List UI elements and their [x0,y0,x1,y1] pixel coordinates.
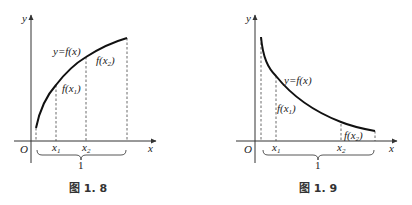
y-axis-label: y [21,12,27,24]
interval-label: 1 [78,159,84,171]
figure-1-9: y x O y=f(x) f(x1) f(x2) x1 x2 1 图 1. 9 [236,12,397,195]
f-x1-label: f(x1) [277,102,296,116]
origin-label: O [20,143,28,155]
x-axis-label: x [147,142,153,154]
origin-label: O [244,143,252,155]
f-x2-label: f(x2) [96,54,115,68]
y-axis-label: y [245,12,251,24]
curve-label: y=f(x) [283,74,312,87]
f-x1-label: f(x1) [62,82,81,96]
f-x2-label: f(x2) [344,129,363,143]
figure-caption: 图 1. 8 [69,182,107,195]
figure-caption: 图 1. 9 [299,182,337,195]
tick-x2-label: x2 [81,141,91,155]
tick-x1-label: x1 [51,141,60,155]
interval-label: 1 [315,159,321,171]
diagram-canvas: y x O y=f(x) f(x2) f(x1) x1 x2 1 图 1. 8 … [0,0,412,205]
curve-label: y=f(x) [52,45,81,58]
curve-decreasing [261,37,375,131]
curve-increasing [36,38,127,128]
x-axis-label: x [388,142,394,154]
tick-x1-label: x1 [271,141,280,155]
tick-x2-label: x2 [336,141,346,155]
figure-1-8: y x O y=f(x) f(x2) f(x1) x1 x2 1 图 1. 8 [14,12,156,195]
